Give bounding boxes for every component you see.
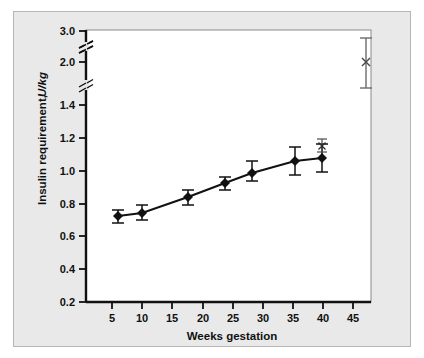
y-axis-title-main: Insulin requirement,: [36, 95, 48, 205]
xtick-label-40: 40: [317, 312, 329, 324]
xtick-label-45: 45: [347, 312, 359, 324]
plot-area-background: [86, 30, 371, 302]
xtick-label-30: 30: [257, 312, 269, 324]
y-axis-tick-labels: 3.0 2.0 1.4 1.2 1.0 0.8 0.6 0.4 0.2: [60, 25, 76, 308]
y-axis-title-units: U/kg: [36, 72, 48, 97]
xtick-label-10: 10: [136, 312, 148, 324]
ytick-label-0-4: 0.4: [60, 263, 76, 275]
ytick-label-0-6: 0.6: [60, 230, 75, 242]
xtick-label-20: 20: [197, 312, 209, 324]
xtick-label-15: 15: [166, 312, 178, 324]
xtick-label-5: 5: [109, 312, 115, 324]
xtick-label-25: 25: [227, 312, 239, 324]
ytick-label-0-2: 0.2: [60, 296, 75, 308]
ytick-label-1-4: 1.4: [60, 99, 76, 111]
ytick-label-1-2: 1.2: [60, 132, 75, 144]
figure-container: 3.0 2.0 1.4 1.2 1.0 0.8 0.6 0.4 0.2 5 10: [0, 0, 424, 358]
ytick-label-2-0: 2.0: [60, 56, 75, 68]
ytick-label-3-0: 3.0: [60, 25, 75, 37]
x-axis-tick-labels: 5 10 15 20 25 30 35 40 45: [109, 312, 359, 324]
insulin-requirement-chart: 3.0 2.0 1.4 1.2 1.0 0.8 0.6 0.4 0.2 5 10: [0, 0, 424, 358]
x-axis-title: Weeks gestation: [187, 330, 278, 342]
ytick-label-1-0: 1.0: [60, 165, 75, 177]
y-axis-title-group: Insulin requirement, U/kg: [36, 72, 48, 205]
xtick-label-35: 35: [287, 312, 299, 324]
ytick-label-0-8: 0.8: [60, 198, 75, 210]
